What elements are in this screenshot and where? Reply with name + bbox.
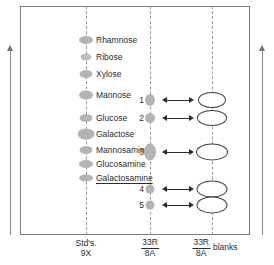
lane-label-standards-line1: Std's. xyxy=(76,238,97,248)
migration-direction-arrow-left xyxy=(5,45,16,235)
spot-standard xyxy=(80,70,93,78)
arrow-head-right-icon xyxy=(189,186,194,192)
standard-label-galactosamine: Galactosamine xyxy=(96,174,153,183)
connector-arrow xyxy=(162,97,194,104)
spot-standard xyxy=(78,129,95,140)
standard-label-xylose: Xylose xyxy=(96,70,122,79)
spot-standard xyxy=(79,36,93,44)
arrow-shaft xyxy=(166,100,190,101)
blank-ellipse xyxy=(196,144,228,161)
standard-label-mannose: Mannose xyxy=(96,91,131,100)
connector-arrow xyxy=(162,186,194,193)
blanks-fraction: 33R 8A xyxy=(192,238,210,259)
chromatography-figure: Rhamnose Ribose Xylose Mannose Glucose G… xyxy=(0,0,274,265)
sample-number-4: 4 xyxy=(134,185,144,194)
arrow-shaft xyxy=(166,205,190,206)
lane-label-sample: 33R 8A xyxy=(141,238,159,259)
lane-label-blanks: 33R 8A blanks xyxy=(192,238,237,259)
migration-direction-arrow-right xyxy=(257,45,268,235)
spot-standard xyxy=(79,175,93,182)
sample-number-1: 1 xyxy=(134,96,144,105)
connector-arrow xyxy=(162,115,194,122)
spot-sample xyxy=(145,113,155,123)
blank-ellipse xyxy=(198,92,226,108)
lane-label-standards-line2: 9X xyxy=(81,248,91,258)
sample-number-3: 3 xyxy=(134,148,144,157)
sample-number-5: 5 xyxy=(134,201,144,210)
standard-label-ribose: Ribose xyxy=(96,53,122,62)
standard-label-glucose: Glucose xyxy=(96,114,127,123)
standard-label-glucosamine: Glucosamine xyxy=(96,160,146,169)
spot-sample xyxy=(144,144,156,161)
standard-label-rhamnose: Rhamnose xyxy=(96,36,137,45)
arrow-head-right-icon xyxy=(189,202,194,208)
sample-fraction-denominator: 8A xyxy=(141,249,159,259)
spot-sample xyxy=(145,94,155,106)
spot-standard xyxy=(80,114,93,122)
connector-arrow xyxy=(162,202,194,209)
sample-number-2: 2 xyxy=(134,114,144,123)
sample-fraction: 33R 8A xyxy=(141,238,159,259)
lane-label-standards: Std's. 9X xyxy=(76,239,97,259)
spot-sample xyxy=(146,185,155,194)
blank-ellipse xyxy=(197,181,228,198)
blank-ellipse xyxy=(197,197,228,214)
blanks-fraction-denominator: 8A xyxy=(192,249,210,259)
arrow-head-right-icon xyxy=(189,149,194,155)
spot-standard xyxy=(81,54,92,61)
connector-arrow xyxy=(162,149,194,156)
arrow-shaft xyxy=(262,49,263,235)
standard-label-galactose: Galactose xyxy=(96,130,134,139)
arrow-shaft xyxy=(166,152,190,153)
spot-standard xyxy=(80,146,93,154)
arrow-head-right-icon xyxy=(189,97,194,103)
arrow-shaft xyxy=(166,189,190,190)
arrow-shaft xyxy=(166,118,190,119)
arrow-head-right-icon xyxy=(189,115,194,121)
arrow-shaft xyxy=(10,49,11,235)
spot-standard xyxy=(79,91,93,100)
blank-ellipse xyxy=(197,110,227,126)
spot-standard xyxy=(79,160,93,168)
spot-sample xyxy=(146,201,155,210)
blanks-suffix-label: blanks xyxy=(210,243,238,253)
